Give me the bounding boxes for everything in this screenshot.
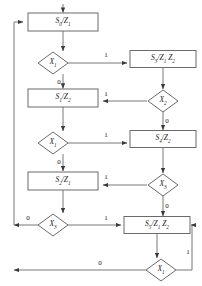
decision-node-D5[interactable] — [38, 214, 68, 236]
state-box-S2[interactable] — [28, 172, 98, 190]
decision-node-D4[interactable] — [148, 174, 178, 196]
state-box-S1[interactable] — [28, 89, 98, 107]
decision-node-D6[interactable] — [146, 259, 176, 281]
decision-node-D3[interactable] — [38, 132, 68, 154]
edge-leftbus-to-S0 — [14, 22, 23, 225]
state-box-S4[interactable] — [130, 131, 196, 148]
state-box-S3[interactable] — [130, 51, 196, 68]
state-box-group — [28, 13, 196, 234]
decision-node-D1[interactable] — [38, 52, 68, 74]
decision-node-D2[interactable] — [148, 90, 178, 112]
state-box-S5[interactable] — [124, 217, 190, 234]
state-box-S0[interactable] — [28, 13, 98, 31]
flowchart-canvas — [0, 0, 202, 286]
